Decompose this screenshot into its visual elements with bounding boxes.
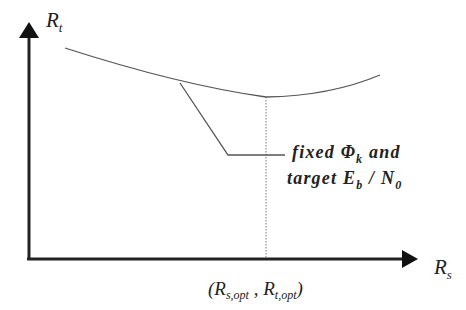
y-axis-arrowhead-icon [19,22,39,38]
y-axis-label: Rt [45,8,63,35]
annotation-line-2: target Eb / N0 [287,168,402,192]
rate-curve [65,48,380,97]
annotation-line-1: fixed Φk and [292,142,401,166]
x-axis-arrowhead-icon [402,250,418,268]
annotation-leader-line [180,83,285,155]
rate-tradeoff-diagram: Rt Rs (Rs,opt , Rt,opt) fixed Φk and tar… [0,0,466,310]
x-axis-label: Rs [433,255,452,282]
optimum-point-label: (Rs,opt , Rt,opt) [208,278,303,302]
